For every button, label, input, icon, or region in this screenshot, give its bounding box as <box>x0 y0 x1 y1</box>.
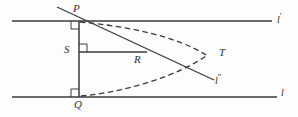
label-point-s: S <box>64 44 70 55</box>
label-line-l: l <box>281 85 284 98</box>
label-point-t: T <box>219 47 225 58</box>
label-line-l-double-prime-mark: ″ <box>218 72 221 82</box>
label-line-l-base: l <box>281 87 284 98</box>
figure-canvas <box>0 0 298 117</box>
right-angle-mark-p <box>71 21 79 29</box>
label-point-r: R <box>134 54 141 65</box>
right-angle-mark-q <box>71 89 79 97</box>
label-line-l-double-prime: l″ <box>215 73 221 86</box>
label-point-p: P <box>73 3 80 14</box>
label-line-l-prime: l′ <box>277 12 281 25</box>
right-angle-mark-s <box>79 44 87 52</box>
label-point-q: Q <box>74 99 82 110</box>
label-line-l-prime-mark: ′ <box>280 11 282 21</box>
geometry-figure: P Q S R T l′ l″ l <box>0 0 298 117</box>
dashed-curve-lower <box>81 56 206 96</box>
